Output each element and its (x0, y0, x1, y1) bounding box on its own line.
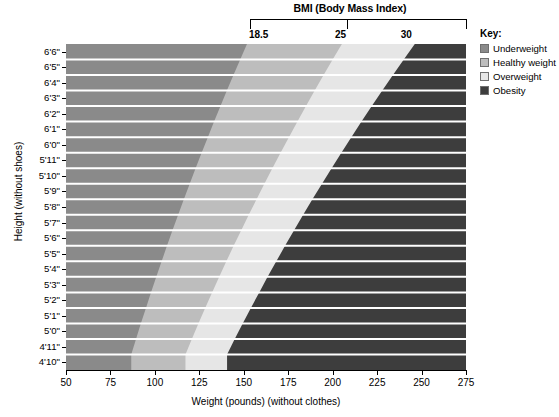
y-axis-tick-6 (62, 145, 66, 146)
x-axis-label-75: 75 (90, 377, 130, 388)
legend-swatch-icon (480, 72, 489, 81)
y-axis-label-4: 6'2" (14, 108, 60, 119)
y-axis-label-11: 5'7" (14, 217, 60, 228)
y-axis-label-15: 5'3" (14, 279, 60, 290)
y-axis-tick-5 (62, 129, 66, 130)
x-axis-tick-250 (422, 370, 423, 375)
legend-items: UnderweightHealthy weightOverweightObesi… (480, 43, 559, 96)
x-axis-tick-225 (377, 370, 378, 375)
x-axis-label-200: 200 (313, 377, 353, 388)
y-axis-label-18: 5'0" (14, 325, 60, 336)
y-axis-label-0: 6'6" (14, 46, 60, 57)
bmi-tick-label-25: 25 (335, 29, 346, 40)
y-axis-tick-20 (62, 362, 66, 363)
y-axis-tick-13 (62, 254, 66, 255)
legend: Key: UnderweightHealthy weightOverweight… (480, 28, 559, 99)
y-axis-tick-8 (62, 176, 66, 177)
x-axis-tick-200 (333, 370, 334, 375)
x-axis-label-50: 50 (46, 377, 86, 388)
bmi-band-svg (66, 44, 466, 370)
y-axis-label-7: 5'11" (14, 154, 60, 165)
bmi-tick-label-30: 30 (401, 29, 412, 40)
x-axis-title: Weight (pounds) (without clothes) (66, 396, 466, 407)
y-axis-tick-19 (62, 347, 66, 348)
x-axis-label-250: 250 (402, 377, 442, 388)
y-axis-label-12: 5'6" (14, 232, 60, 243)
y-axis-label-20: 4'10" (14, 356, 60, 367)
bmi-bracket (250, 19, 467, 29)
y-axis-label-6: 6'0" (14, 139, 60, 150)
y-axis-tick-12 (62, 238, 66, 239)
y-axis-label-3: 6'3" (14, 92, 60, 103)
y-axis-label-19: 4'11" (14, 341, 60, 352)
legend-item-overweight: Overweight (480, 71, 559, 82)
x-axis-label-225: 225 (357, 377, 397, 388)
legend-item-underweight: Underweight (480, 43, 559, 54)
bmi-mid-tick (347, 19, 348, 29)
x-axis-tick-275 (466, 370, 467, 375)
y-axis-label-14: 5'4" (14, 263, 60, 274)
y-axis-tick-2 (62, 83, 66, 84)
y-axis-tick-17 (62, 316, 66, 317)
legend-title: Key: (480, 28, 559, 39)
x-axis-tick-100 (155, 370, 156, 375)
y-axis-tick-3 (62, 98, 66, 99)
legend-item-healthy-weight: Healthy weight (480, 57, 559, 68)
legend-item-label: Healthy weight (493, 57, 556, 68)
x-axis-tick-75 (110, 370, 111, 375)
y-axis-tick-11 (62, 223, 66, 224)
chart-plot-area (66, 44, 466, 370)
y-axis-label-2: 6'4" (14, 77, 60, 88)
legend-swatch-icon (480, 44, 489, 53)
legend-item-obesity: Obesity (480, 85, 559, 96)
y-axis-label-16: 5'2" (14, 294, 60, 305)
x-axis-label-125: 125 (179, 377, 219, 388)
x-axis-tick-50 (66, 370, 67, 375)
y-axis-label-10: 5'8" (14, 201, 60, 212)
legend-item-label: Overweight (493, 71, 542, 82)
y-axis-label-13: 5'5" (14, 248, 60, 259)
x-axis-label-275: 275 (446, 377, 486, 388)
x-axis-label-175: 175 (268, 377, 308, 388)
bmi-tick-label-18-5: 18.5 (249, 29, 268, 40)
bmi-chart-figure: BMI (Body Mass Index) 18.52530 Height (w… (0, 0, 559, 417)
legend-swatch-icon (480, 86, 489, 95)
y-axis-tick-7 (62, 160, 66, 161)
y-axis-tick-1 (62, 67, 66, 68)
y-axis-tick-15 (62, 285, 66, 286)
y-axis-tick-16 (62, 300, 66, 301)
y-axis-tick-10 (62, 207, 66, 208)
y-axis-label-5: 6'1" (14, 123, 60, 134)
bmi-axis-title: BMI (Body Mass Index) (230, 2, 470, 14)
x-axis-line (66, 370, 466, 371)
legend-swatch-icon (480, 58, 489, 67)
x-axis-label-150: 150 (224, 377, 264, 388)
y-axis-tick-9 (62, 191, 66, 192)
y-axis-tick-18 (62, 331, 66, 332)
y-axis-tick-0 (62, 52, 66, 53)
y-axis-tick-4 (62, 114, 66, 115)
legend-item-label: Obesity (493, 85, 526, 96)
x-axis-tick-125 (199, 370, 200, 375)
y-axis-label-9: 5'9" (14, 185, 60, 196)
legend-item-label: Underweight (493, 43, 547, 54)
y-axis-label-17: 5'1" (14, 310, 60, 321)
x-axis-label-100: 100 (135, 377, 175, 388)
y-axis-label-8: 5'10" (14, 170, 60, 181)
y-axis-label-1: 6'5" (14, 61, 60, 72)
x-axis-tick-175 (288, 370, 289, 375)
x-axis-tick-150 (244, 370, 245, 375)
y-axis-tick-14 (62, 269, 66, 270)
